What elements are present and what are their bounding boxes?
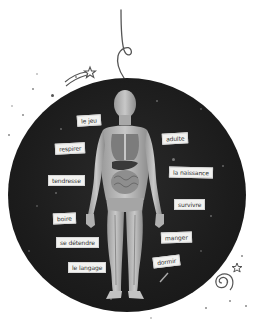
illustration: le jeu respirer adulte la naissance tend… xyxy=(0,0,253,323)
label-manger: manger xyxy=(161,231,192,243)
label-le-jeu: le jeu xyxy=(77,114,102,127)
label-le-langage: le langage xyxy=(68,262,106,273)
label-respirer: respirer xyxy=(55,142,86,155)
label-se-detendre: se détendre xyxy=(56,237,99,248)
label-tendresse: tendresse xyxy=(48,175,85,186)
anatomy-figure xyxy=(0,0,253,323)
label-adulte: adulte xyxy=(162,132,189,144)
label-boire: boire xyxy=(53,213,76,225)
label-survivre: survivre xyxy=(174,199,205,210)
label-la-naissance: la naissance xyxy=(169,167,213,179)
